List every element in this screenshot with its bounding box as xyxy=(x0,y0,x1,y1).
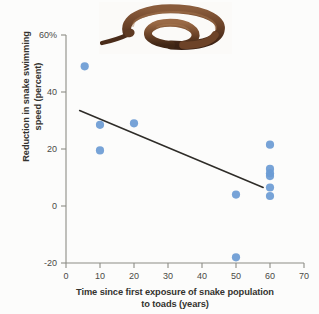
data-point xyxy=(130,119,138,127)
x-axis-title: Time since first exposure of snake popul… xyxy=(46,287,304,310)
data-point xyxy=(266,141,274,149)
y-tick-label-minus20: -20 xyxy=(16,258,57,268)
x-axis-title-line2: to toads (years) xyxy=(46,299,304,311)
x-tick-label-70: 70 xyxy=(290,271,318,281)
y-axis-title-line2: speed (percent) xyxy=(32,2,44,192)
x-tick-label-20: 20 xyxy=(120,271,148,281)
data-point xyxy=(266,172,274,180)
x-tick-label-10: 10 xyxy=(86,271,114,281)
data-points-group xyxy=(81,62,275,261)
data-point xyxy=(232,253,240,261)
x-axis-ticks xyxy=(66,263,304,268)
data-point xyxy=(266,183,274,191)
x-tick-label-0: 0 xyxy=(52,271,80,281)
data-point xyxy=(96,146,104,154)
y-axis-ticks xyxy=(61,35,66,263)
trend-line xyxy=(80,111,264,188)
data-point xyxy=(232,191,240,199)
y-axis-title-line1: Reduction in snake swimming xyxy=(21,2,33,192)
x-tick-label-60: 60 xyxy=(256,271,284,281)
data-point xyxy=(81,62,89,70)
x-tick-label-40: 40 xyxy=(188,271,216,281)
x-tick-label-30: 30 xyxy=(154,271,182,281)
data-point xyxy=(96,121,104,129)
x-tick-label-50: 50 xyxy=(222,271,250,281)
y-axis-title: Reduction in snake swimming speed (perce… xyxy=(21,2,44,192)
y-tick-label-0: 0 xyxy=(16,201,57,211)
figure-scatter-snake-swimming-speed: 60% 40 20 0 -20 0 10 20 30 40 50 60 70 R… xyxy=(0,0,319,314)
x-axis-title-line1: Time since first exposure of snake popul… xyxy=(46,287,304,299)
data-point xyxy=(266,192,274,200)
